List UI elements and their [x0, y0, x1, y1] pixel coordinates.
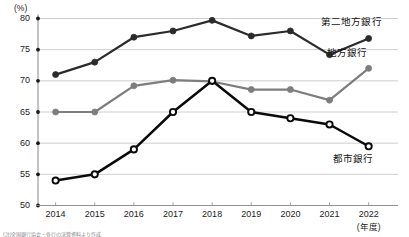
- series-line: [56, 81, 369, 181]
- y-axis-tick-label: 55: [8, 169, 30, 179]
- y-axis-tick-label: 75: [8, 44, 30, 54]
- y-axis-tick-label: 50: [8, 200, 30, 210]
- data-point-marker: [170, 109, 176, 115]
- y-axis-tick-label: 80: [8, 13, 30, 23]
- data-point-marker: [209, 78, 215, 84]
- x-axis-tick-label: 2019: [231, 209, 271, 219]
- x-axis-tick-label: 2017: [153, 209, 193, 219]
- y-axis-tick-dot: [36, 141, 40, 145]
- x-axis-tick-label: 2014: [36, 209, 76, 219]
- data-point-marker: [53, 72, 59, 78]
- series-label-3: 都市銀行: [333, 151, 374, 165]
- y-axis-tick-dot: [36, 79, 40, 83]
- data-point-marker: [170, 28, 176, 34]
- y-axis-tick-label: 70: [8, 75, 30, 85]
- data-point-marker: [92, 109, 98, 115]
- data-point-marker: [92, 171, 98, 177]
- data-point-marker: [131, 146, 137, 152]
- data-point-marker: [287, 115, 293, 121]
- x-axis-tick-label: 2016: [114, 209, 154, 219]
- data-point-marker: [366, 143, 372, 149]
- line-chart-plot: [0, 0, 409, 237]
- x-axis-tick-label: 2015: [75, 209, 115, 219]
- data-point-marker: [248, 33, 254, 39]
- series-line: [56, 20, 369, 74]
- data-point-marker: [92, 59, 98, 65]
- x-axis-tick-label: 2022: [349, 209, 389, 219]
- data-point-marker: [53, 177, 59, 183]
- series-label-1: 第二地方銀行: [321, 14, 382, 28]
- series-line: [56, 68, 369, 112]
- data-point-marker: [248, 87, 254, 93]
- data-point-marker: [287, 28, 293, 34]
- data-point-marker: [366, 65, 372, 71]
- x-axis-tick-label: 2020: [270, 209, 310, 219]
- data-point-marker: [131, 83, 137, 89]
- series-3: [53, 78, 372, 184]
- y-axis-tick-dot: [36, 172, 40, 176]
- data-point-marker: [209, 17, 215, 23]
- data-point-marker: [53, 109, 59, 115]
- x-axis-tick-label: 2021: [310, 209, 350, 219]
- data-point-marker: [287, 87, 293, 93]
- y-axis-tick-dot: [36, 17, 40, 21]
- x-axis-unit-label: (年度): [345, 220, 393, 232]
- y-axis-tick-label: 60: [8, 138, 30, 148]
- chart-container: (%) 50556065707580 201420152016201720182…: [0, 0, 409, 237]
- data-point-marker: [131, 34, 137, 40]
- data-point-marker: [248, 109, 254, 115]
- data-point-marker: [327, 97, 333, 103]
- y-axis-tick-dot: [36, 110, 40, 114]
- y-axis-tick-dot: [36, 48, 40, 52]
- series-2: [53, 65, 372, 115]
- data-point-marker: [326, 121, 332, 127]
- x-axis-tick-label: 2018: [192, 209, 232, 219]
- data-point-marker: [366, 35, 372, 41]
- y-axis-tick-label: 65: [8, 107, 30, 117]
- source-note: (注)全国銀行協会・各行の決算資料より作成: [3, 231, 101, 237]
- data-point-marker: [170, 77, 176, 83]
- series-label-2: 地方銀行: [327, 45, 368, 59]
